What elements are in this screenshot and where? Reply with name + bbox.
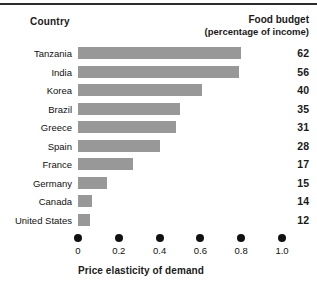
top-divider-rule xyxy=(0,3,317,5)
axis-tick-label: 0.4 xyxy=(140,245,180,257)
food-budget-value: 56 xyxy=(269,66,309,78)
bar-rows-container: Tanzania62India56Korea40Brazil35Greece31… xyxy=(0,46,317,232)
axis-tick-dot-icon xyxy=(196,234,204,242)
country-label: Korea xyxy=(0,85,72,97)
elasticity-bar xyxy=(78,84,202,96)
elasticity-bar xyxy=(78,177,107,189)
country-label: Germany xyxy=(0,178,72,190)
food-budget-value: 62 xyxy=(269,47,309,59)
axis-tick-label: 1.0 xyxy=(262,245,302,257)
column-header-food-budget: Food budget (percentage of income) xyxy=(129,14,309,38)
axis-tick-label: 0.2 xyxy=(99,245,139,257)
axis-tick-dot-icon xyxy=(156,234,164,242)
country-label: United States xyxy=(0,215,72,227)
food-budget-value: 14 xyxy=(269,195,309,207)
elasticity-bar xyxy=(78,121,176,133)
bar-row: France17 xyxy=(0,157,317,176)
food-budget-value: 12 xyxy=(269,214,309,226)
elasticity-bar xyxy=(78,66,239,78)
elasticity-bar xyxy=(78,103,180,115)
country-label: Greece xyxy=(0,122,72,134)
food-budget-value: 28 xyxy=(269,140,309,152)
x-axis-title: Price elasticity of demand xyxy=(78,265,204,276)
column-header-food-budget-line2: (percentage of income) xyxy=(129,26,309,38)
chart-figure: Country Food budget (percentage of incom… xyxy=(0,0,317,287)
axis-tick-dot-icon xyxy=(115,234,123,242)
axis-tick-dot-icon xyxy=(278,234,286,242)
elasticity-bar xyxy=(78,47,241,59)
axis-tick-dot-icon xyxy=(237,234,245,242)
country-label: France xyxy=(0,159,72,171)
food-budget-value: 35 xyxy=(269,103,309,115)
elasticity-bar xyxy=(78,214,90,226)
axis-tick-label: 0.6 xyxy=(180,245,220,257)
elasticity-bar xyxy=(78,140,160,152)
bar-row: Korea40 xyxy=(0,83,317,102)
food-budget-value: 17 xyxy=(269,158,309,170)
column-header-food-budget-line1: Food budget xyxy=(129,14,309,26)
food-budget-value: 40 xyxy=(269,84,309,96)
elasticity-bar xyxy=(78,158,133,170)
country-label: Tanzania xyxy=(0,48,72,60)
bar-row: Tanzania62 xyxy=(0,46,317,65)
column-header-country: Country xyxy=(30,16,70,27)
country-label: India xyxy=(0,67,72,79)
bar-row: Canada14 xyxy=(0,194,317,213)
food-budget-value: 31 xyxy=(269,121,309,133)
country-label: Spain xyxy=(0,141,72,153)
x-axis: 00.20.40.60.81.0 xyxy=(0,232,317,258)
bar-row: United States12 xyxy=(0,213,317,232)
elasticity-bar xyxy=(78,195,92,207)
country-label: Canada xyxy=(0,196,72,208)
bar-row: India56 xyxy=(0,65,317,84)
food-budget-value: 15 xyxy=(269,177,309,189)
axis-tick-label: 0.8 xyxy=(221,245,261,257)
bar-row: Greece31 xyxy=(0,120,317,139)
axis-tick-dot-icon xyxy=(74,234,82,242)
country-label: Brazil xyxy=(0,104,72,116)
bar-row: Brazil35 xyxy=(0,102,317,121)
bar-row: Germany15 xyxy=(0,176,317,195)
bar-row: Spain28 xyxy=(0,139,317,158)
axis-tick-label: 0 xyxy=(58,245,98,257)
